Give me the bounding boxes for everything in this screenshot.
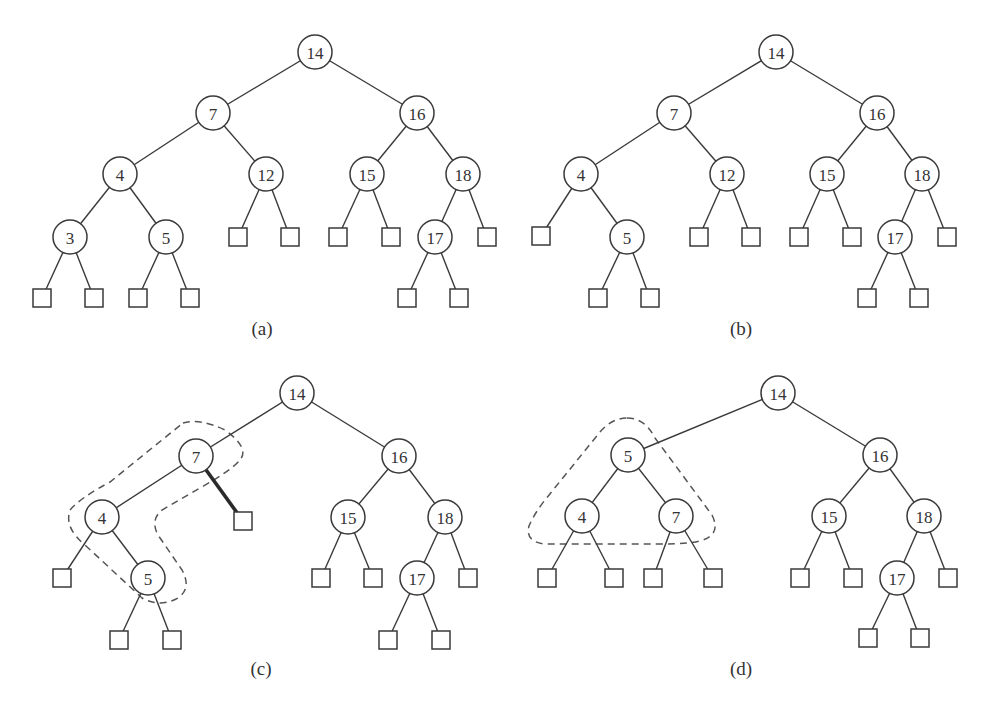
node-key: 14 (768, 44, 786, 63)
tree-node-4: 4 (85, 500, 119, 534)
external-node (938, 228, 956, 246)
external-node (382, 228, 400, 246)
node-key: 16 (872, 447, 889, 466)
external-node (690, 228, 708, 246)
external-node (843, 228, 861, 246)
tree-node-7: 7 (196, 96, 230, 130)
external-node (281, 228, 299, 246)
tree-edge (297, 393, 399, 456)
tree-node-16: 16 (382, 439, 416, 473)
tree-node-17: 17 (880, 561, 914, 595)
tree-edge (315, 52, 417, 113)
external-node (910, 289, 928, 307)
node-key: 17 (427, 229, 445, 248)
external-node (129, 289, 147, 307)
external-node (704, 569, 722, 587)
external-node (450, 289, 468, 307)
tree-node-4: 4 (565, 499, 599, 533)
nodes: 4751517181614 (538, 376, 957, 647)
external-node (589, 289, 607, 307)
external-node (163, 631, 181, 649)
tree-node-17: 17 (400, 561, 434, 595)
external-node (432, 631, 450, 649)
external-node (939, 569, 957, 587)
node-key: 17 (889, 570, 907, 589)
external-node (641, 289, 659, 307)
tree-node-4: 4 (103, 157, 137, 191)
tree-node-18: 18 (907, 499, 941, 533)
node-key: 3 (66, 229, 75, 248)
caption-a: (a) (251, 318, 272, 340)
node-key: 14 (289, 385, 307, 404)
nodes: 5471517181614 (53, 376, 477, 649)
external-node (181, 289, 199, 307)
node-key: 7 (672, 508, 681, 527)
external-node (364, 569, 382, 587)
node-key: 4 (577, 166, 586, 185)
panel-b: 541271517181614 (532, 35, 956, 307)
edges (62, 393, 468, 640)
node-key: 16 (409, 105, 426, 124)
tree-node-14: 14 (761, 376, 795, 410)
external-node (33, 289, 51, 307)
tree-node-7: 7 (657, 96, 691, 130)
node-key: 15 (340, 509, 357, 528)
node-key: 4 (98, 509, 107, 528)
node-key: 4 (116, 166, 125, 185)
tree-node-5: 5 (131, 561, 165, 595)
external-node (844, 569, 862, 587)
external-node (398, 289, 416, 307)
external-node (110, 631, 128, 649)
tree-node-15: 15 (350, 157, 384, 191)
panel-a: 3541271517181614 (33, 35, 496, 307)
external-node (859, 629, 877, 647)
node-key: 15 (821, 508, 838, 527)
external-node (532, 227, 550, 245)
tree-node-5: 5 (610, 220, 644, 254)
tree-node-16: 16 (860, 96, 894, 130)
external-node (85, 289, 103, 307)
tree-edge (628, 393, 778, 455)
tree-edge (674, 52, 776, 113)
tree-node-15: 15 (810, 157, 844, 191)
node-key: 14 (307, 44, 325, 63)
node-key: 17 (887, 229, 905, 248)
node-key: 5 (624, 447, 633, 466)
tree-node-15: 15 (812, 499, 846, 533)
tree-figure: 3541271517181614 541271517181614 5471517… (0, 0, 986, 705)
node-key: 5 (144, 570, 153, 589)
external-node (234, 512, 252, 530)
node-key: 12 (719, 166, 736, 185)
node-key: 12 (258, 166, 275, 185)
tree-node-5: 5 (611, 438, 645, 472)
tree-node-14: 14 (280, 376, 314, 410)
tree-edge (213, 52, 315, 113)
external-node (791, 569, 809, 587)
external-node (312, 569, 330, 587)
external-node (229, 228, 247, 246)
node-key: 7 (209, 105, 218, 124)
external-node (790, 228, 808, 246)
tree-node-14: 14 (759, 35, 793, 69)
node-key: 18 (916, 508, 933, 527)
external-node (478, 228, 496, 246)
node-key: 15 (819, 166, 836, 185)
edges (547, 393, 948, 638)
external-node (742, 228, 760, 246)
tree-node-14: 14 (298, 35, 332, 69)
tree-edge (778, 393, 880, 455)
caption-b: (b) (730, 318, 752, 340)
tree-node-18: 18 (905, 157, 939, 191)
external-node (538, 569, 556, 587)
node-key: 5 (162, 229, 171, 248)
node-key: 5 (623, 229, 632, 248)
external-node (605, 569, 623, 587)
node-key: 15 (359, 166, 376, 185)
panel-d: 4751517181614 (528, 376, 957, 647)
tree-node-17: 17 (878, 220, 912, 254)
tree-node-5: 5 (149, 220, 183, 254)
node-key: 17 (409, 570, 427, 589)
tree-node-16: 16 (863, 438, 897, 472)
node-key: 14 (770, 385, 788, 404)
nodes: 541271517181614 (532, 35, 956, 307)
